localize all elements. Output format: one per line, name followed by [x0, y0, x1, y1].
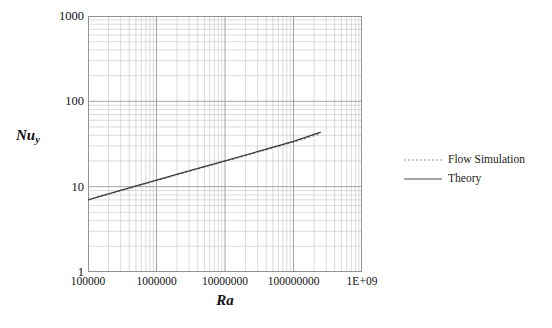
legend-label-theory: Theory — [442, 172, 481, 185]
chart-figure: 1000 100 10 1 Nuy 100000 1000000 1000000… — [0, 0, 552, 328]
y-axis-tick-10: 10 — [40, 181, 84, 193]
legend-swatch-dotted-icon — [404, 155, 442, 165]
legend-label-flow-simulation: Flow Simulation — [442, 153, 525, 166]
y-axis-tick-100: 100 — [40, 95, 84, 107]
x-axis-tick-1000000: 1000000 — [136, 274, 176, 288]
y-axis-title-subscript: y — [35, 134, 40, 145]
x-axis-tick-100000: 100000 — [71, 274, 106, 288]
x-axis-title: Ra — [0, 292, 450, 309]
legend-swatch-solid-icon — [404, 174, 442, 184]
x-axis-tick-100000000: 100000000 — [268, 274, 320, 288]
y-axis-title-base: Nu — [16, 127, 35, 143]
legend-item-theory: Theory — [404, 169, 544, 188]
plot-area — [88, 16, 362, 272]
chart-legend: Flow Simulation Theory — [404, 150, 544, 188]
y-axis-tick-labels: 1000 100 10 1 — [36, 0, 84, 280]
y-axis-title: Nuy — [16, 127, 40, 145]
legend-item-flow-simulation: Flow Simulation — [404, 150, 544, 169]
plot-canvas — [88, 16, 362, 272]
x-axis-tick-1e09: 1E+09 — [347, 274, 378, 288]
x-axis-tick-labels: 100000 1000000 10000000 100000000 1E+09 — [0, 274, 552, 294]
x-axis-tick-10000000: 10000000 — [202, 274, 248, 288]
y-axis-tick-1000: 1000 — [40, 10, 84, 22]
